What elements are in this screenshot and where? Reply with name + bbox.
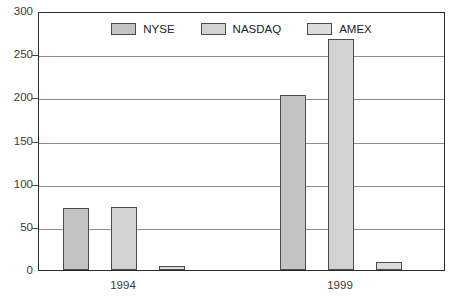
plot-area: NYSENASDAQAMEX (38, 12, 445, 271)
legend-swatch-amex (307, 23, 332, 35)
bar-amex-1999 (376, 262, 402, 270)
y-tick-label-150: 150 (0, 136, 33, 148)
legend-item-amex: AMEX (307, 23, 372, 35)
y-tick-label-100: 100 (0, 179, 33, 191)
y-tick-label-250: 250 (0, 49, 33, 61)
bar-nyse-1994 (63, 208, 89, 270)
gridline-50 (39, 229, 444, 230)
bar-nasdaq-1999 (328, 39, 354, 270)
legend-label-nyse: NYSE (143, 23, 174, 35)
bar-chart: 300250200150100500 NYSENASDAQAMEX 199419… (0, 0, 466, 296)
y-tick-label-200: 200 (0, 92, 33, 104)
gridline-100 (39, 186, 444, 187)
legend-label-amex: AMEX (339, 23, 372, 35)
bar-nyse-1999 (280, 95, 306, 270)
gridline-200 (39, 99, 444, 100)
legend-swatch-nyse (111, 23, 136, 35)
y-tick-label-300: 300 (0, 6, 33, 18)
legend-label-nasdaq: NASDAQ (233, 23, 282, 35)
chart-legend: NYSENASDAQAMEX (39, 23, 444, 35)
bar-nasdaq-1994 (111, 207, 137, 270)
legend-item-nyse: NYSE (111, 23, 174, 35)
x-axis-label-1999: 1999 (327, 279, 353, 291)
legend-swatch-nasdaq (201, 23, 226, 35)
y-tick-label-0: 0 (0, 265, 33, 277)
gridline-250 (39, 56, 444, 57)
x-axis-label-1994: 1994 (110, 279, 136, 291)
bar-amex-1994 (159, 266, 185, 270)
y-tick-label-50: 50 (0, 222, 33, 234)
gridline-150 (39, 143, 444, 144)
legend-item-nasdaq: NASDAQ (201, 23, 282, 35)
